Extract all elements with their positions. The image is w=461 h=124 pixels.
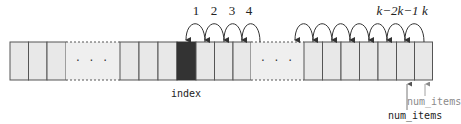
step-labels-left: 1 2 3 4 <box>193 3 253 18</box>
array-cell <box>397 42 415 80</box>
array-cell <box>158 42 177 80</box>
array-cell <box>360 42 379 80</box>
step-label: k <box>422 3 428 18</box>
array-cell <box>47 42 66 80</box>
step-label: 3 <box>229 3 236 18</box>
array-cell <box>233 42 251 80</box>
shift-arc-icon <box>242 24 260 42</box>
array-cell <box>196 42 215 80</box>
shift-arc-icon <box>224 24 242 42</box>
shift-arcs-left <box>186 24 260 42</box>
step-label: 4 <box>246 3 253 18</box>
shift-arc-icon <box>387 24 405 42</box>
array-cell <box>29 42 48 80</box>
ellipsis-region-1: · · · <box>66 42 120 80</box>
num-items-new-label: num_items <box>388 110 442 122</box>
shift-arc-icon <box>369 24 387 42</box>
shift-arc-icon <box>186 24 205 42</box>
step-label: k−1 <box>397 3 418 18</box>
array-cell <box>139 42 158 80</box>
array-cell <box>341 42 360 80</box>
cells-left-group <box>10 42 66 80</box>
index-label: index <box>171 88 201 99</box>
shift-arcs-right <box>295 24 424 42</box>
num-items-pointers: num_items num_items <box>388 84 461 122</box>
array-cell <box>415 42 433 80</box>
shift-arc-icon <box>332 24 350 42</box>
array-cell <box>323 42 342 80</box>
cells-right-group <box>304 42 433 80</box>
removed-cell-at-index <box>177 42 196 80</box>
step-label: 1 <box>193 3 200 18</box>
ellipsis-text: · · · <box>261 54 295 68</box>
shift-arc-icon <box>405 24 424 42</box>
array-cell <box>378 42 397 80</box>
array-shift-diagram: · · · · · · 1 2 3 4 <box>0 0 461 124</box>
step-label: k−2 <box>376 3 398 18</box>
step-labels-right: k−2 k−1 k <box>376 3 428 18</box>
num-items-old-label: num_items <box>407 96 461 108</box>
shift-arc-icon <box>350 24 369 42</box>
ellipsis-region-2: · · · <box>251 42 304 80</box>
shift-arc-icon <box>295 24 313 42</box>
cells-middle-group <box>120 42 251 80</box>
shift-arc-icon <box>205 24 224 42</box>
array-cell <box>10 42 29 80</box>
array-cell <box>304 42 323 80</box>
ellipsis-text: · · · <box>76 54 110 68</box>
array-cell <box>120 42 139 80</box>
step-label: 2 <box>211 3 218 18</box>
array-cell <box>215 42 234 80</box>
shift-arc-icon <box>313 24 332 42</box>
